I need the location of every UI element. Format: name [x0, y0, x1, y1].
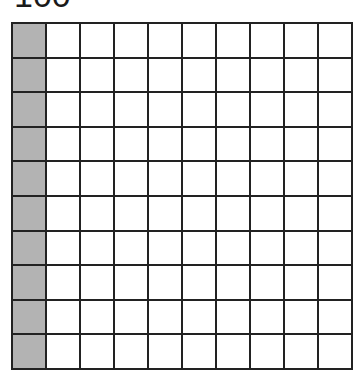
grid-cell	[47, 24, 81, 59]
grid-cell	[47, 162, 81, 197]
grid-cell	[251, 93, 285, 128]
grid-cell	[149, 162, 183, 197]
grid-cell	[47, 335, 81, 370]
grid-cell	[319, 128, 353, 163]
grid-cell	[319, 24, 353, 59]
grid-cell	[285, 59, 319, 94]
grid-cell	[285, 232, 319, 267]
grid-cell	[149, 266, 183, 301]
grid-cell	[149, 93, 183, 128]
shaded-cell	[13, 24, 47, 59]
grid-cell	[251, 232, 285, 267]
grid-cell	[115, 335, 149, 370]
grid-cell	[115, 128, 149, 163]
grid-cell	[285, 266, 319, 301]
grid-cell	[217, 301, 251, 336]
grid-cell	[183, 93, 217, 128]
grid-cell	[183, 232, 217, 267]
grid-cell	[47, 128, 81, 163]
grid-cell	[285, 24, 319, 59]
shaded-cell	[13, 59, 47, 94]
grid-cell	[81, 128, 115, 163]
grid-cell	[47, 197, 81, 232]
grid-cell	[183, 197, 217, 232]
grid-cell	[251, 128, 285, 163]
grid-cell	[149, 335, 183, 370]
grid-cell	[149, 301, 183, 336]
grid-cell	[251, 266, 285, 301]
grid-cell	[285, 128, 319, 163]
grid-cell	[81, 24, 115, 59]
grid-cell	[319, 266, 353, 301]
grid-cell	[115, 24, 149, 59]
grid-cell	[217, 232, 251, 267]
shaded-cell	[13, 335, 47, 370]
grid-cell	[115, 93, 149, 128]
grid-cell	[251, 301, 285, 336]
grid-cell	[183, 266, 217, 301]
grid-cell	[285, 301, 319, 336]
grid-cell	[183, 301, 217, 336]
grid-cell	[183, 59, 217, 94]
grid-cell	[285, 335, 319, 370]
grid-cell	[183, 162, 217, 197]
shaded-cell	[13, 266, 47, 301]
grid-cell	[47, 301, 81, 336]
grid-cell	[149, 128, 183, 163]
grid-cell	[319, 197, 353, 232]
grid-cell	[81, 335, 115, 370]
shaded-cell	[13, 128, 47, 163]
grid-cell	[115, 197, 149, 232]
grid-cell	[251, 24, 285, 59]
shaded-cell	[13, 232, 47, 267]
hundred-grid	[11, 22, 353, 370]
grid-cell	[183, 128, 217, 163]
grid-cell	[217, 162, 251, 197]
grid-cell	[183, 335, 217, 370]
grid-cell	[115, 232, 149, 267]
shaded-cell	[13, 162, 47, 197]
grid-cell	[285, 162, 319, 197]
grid-cell	[115, 301, 149, 336]
grid-cell	[47, 232, 81, 267]
grid-cell	[285, 93, 319, 128]
shaded-cell	[13, 93, 47, 128]
grid-cell	[319, 93, 353, 128]
grid-cell	[217, 59, 251, 94]
grid-cell	[217, 266, 251, 301]
shaded-cell	[13, 301, 47, 336]
grid-cell	[47, 266, 81, 301]
grid-cell	[319, 301, 353, 336]
grid-cell	[81, 232, 115, 267]
grid-cell	[319, 335, 353, 370]
grid-cell	[81, 301, 115, 336]
grid-cell	[149, 232, 183, 267]
grid-cell	[47, 93, 81, 128]
grid-cell	[319, 162, 353, 197]
grid-cell	[251, 197, 285, 232]
shaded-cell	[13, 197, 47, 232]
grid-cell	[115, 59, 149, 94]
grid-cell	[115, 266, 149, 301]
grid-cell	[115, 162, 149, 197]
grid-cell	[81, 93, 115, 128]
grid-cell	[81, 266, 115, 301]
grid-cell	[251, 335, 285, 370]
grid-cell	[319, 232, 353, 267]
grid-cell	[81, 59, 115, 94]
grid-cell	[251, 59, 285, 94]
grid-cell	[149, 59, 183, 94]
grid-cell	[183, 24, 217, 59]
grid-cell	[217, 24, 251, 59]
grid-cell	[81, 162, 115, 197]
grid-cell	[47, 59, 81, 94]
grid-cell	[217, 197, 251, 232]
grid-title: 100	[14, 0, 71, 12]
grid-cell	[251, 162, 285, 197]
grid-cell	[217, 335, 251, 370]
grid-cell	[81, 197, 115, 232]
grid-cell	[149, 197, 183, 232]
grid-cell	[149, 24, 183, 59]
grid-cell	[217, 128, 251, 163]
grid-cell	[319, 59, 353, 94]
